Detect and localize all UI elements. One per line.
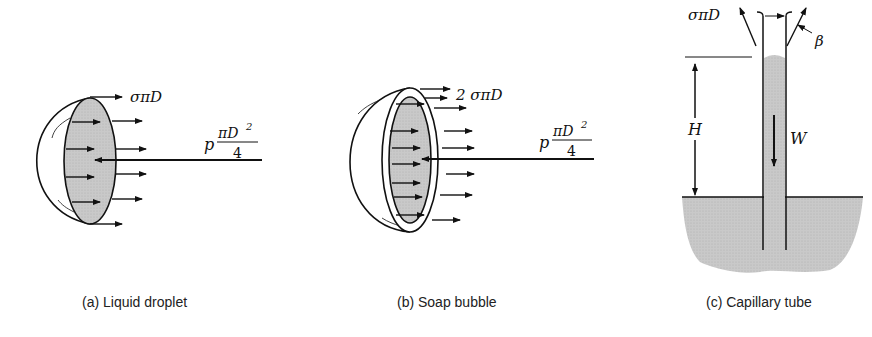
caption-b: (b) Soap bubble — [397, 294, 497, 310]
weight-label: W — [790, 129, 808, 148]
svg-text:2: 2 — [580, 119, 587, 130]
svg-text:πD: πD — [217, 125, 238, 141]
tension-arrow-left — [740, 8, 756, 46]
surface-force-label: σπD — [688, 6, 720, 24]
surface-force-label: σπD — [130, 88, 162, 106]
caption-a: (a) Liquid droplet — [82, 294, 187, 310]
panel-c-capillary-tube: σπD β H W — [682, 6, 863, 273]
svg-text:4: 4 — [567, 143, 576, 159]
svg-text:p: p — [204, 135, 214, 154]
beta-pointer — [798, 25, 812, 33]
caption-c: (c) Capillary tube — [706, 294, 812, 310]
panel-a-liquid-droplet: σπD p πD 2 4 — [37, 88, 262, 224]
tension-arrow-right — [787, 8, 806, 46]
svg-text:πD: πD — [552, 123, 573, 139]
contact-angle-label: β — [814, 32, 824, 50]
svg-text:p: p — [539, 133, 549, 152]
svg-text:2: 2 — [245, 121, 252, 132]
surface-force-label: 2 σπD — [455, 86, 502, 104]
panel-b-soap-bubble: 2 σπD p πD 2 4 — [350, 86, 594, 232]
surface-tension-diagram: σπD p πD 2 4 — [0, 0, 872, 337]
svg-text:4: 4 — [233, 145, 242, 161]
height-label: H — [687, 120, 703, 139]
